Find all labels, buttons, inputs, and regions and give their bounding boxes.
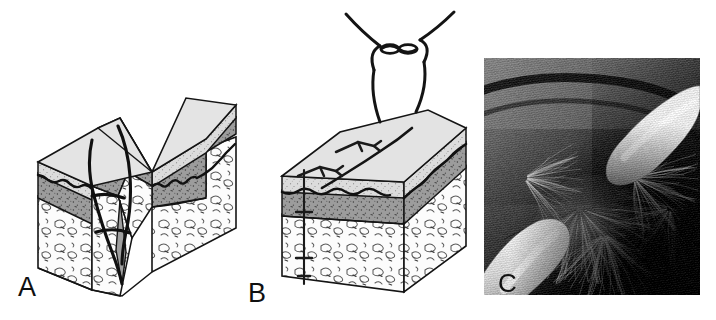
suture-knot [381, 45, 417, 54]
panel-b-label: B [248, 278, 266, 309]
suture-tail-right [420, 12, 454, 40]
suture-knot-assembly-b [346, 12, 454, 122]
clinical-photograph [484, 58, 700, 295]
suture-loop-left-leg [373, 70, 380, 122]
panel-a-label: A [18, 272, 36, 303]
panel-a-right-block [152, 98, 236, 272]
suture-loop-right-upper [420, 40, 427, 62]
panel-a: A [0, 0, 240, 320]
suture-loop-right-leg [416, 62, 425, 112]
suture-loop-left-upper [372, 46, 380, 70]
panel-b: B [240, 0, 484, 320]
fat-layer-b-front [282, 214, 404, 292]
panel-b-illustration [240, 0, 484, 320]
suture-tail-left [346, 14, 380, 46]
panel-a-left-block [38, 118, 152, 296]
panel-c-label: C [498, 268, 517, 299]
panel-b-block [282, 110, 466, 292]
figure-container: A [0, 0, 716, 320]
panel-c [484, 58, 700, 295]
